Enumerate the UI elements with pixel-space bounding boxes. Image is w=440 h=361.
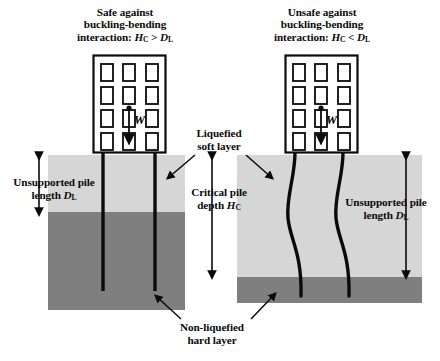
right-unsupported-line2: length DL — [334, 209, 438, 224]
left-title-line2: buckling-bending — [44, 18, 206, 30]
right-building — [286, 56, 358, 153]
nonliquefied-line2: hard layer — [146, 334, 278, 347]
nonliquefied-line1: Non-liquefied — [146, 321, 278, 334]
right-panel-title: Unsafe against buckling-bending interact… — [238, 6, 406, 47]
left-panel-title: Safe against buckling-bending interactio… — [44, 6, 206, 47]
left-unsupported-line2: length DL — [2, 189, 106, 204]
right-unsupported-pile-label: Unsupported pile length DL — [334, 196, 438, 224]
critical-pile-depth-label: Critical pile depth HC — [172, 186, 266, 214]
critical-line1: Critical pile — [172, 186, 266, 199]
right-unsupported-line1: Unsupported pile — [334, 196, 438, 209]
left-title-line3: interaction: HC > DL — [44, 31, 206, 47]
right-title-line1: Unsafe against — [238, 6, 406, 18]
right-ground — [237, 155, 422, 303]
left-load-label: W — [134, 113, 145, 128]
left-title-line1: Safe against — [44, 6, 206, 18]
left-unsupported-pile-label: Unsupported pile length DL — [2, 176, 106, 204]
left-hard-layer — [48, 212, 185, 310]
left-building — [94, 56, 166, 153]
nonliquefied-hard-layer-label: Non-liquefied hard layer — [146, 321, 278, 347]
right-hard-layer — [237, 277, 422, 303]
liquefied-soft-layer-label: Liquefied soft layer — [176, 127, 262, 153]
liquefied-line1: Liquefied — [176, 127, 262, 140]
right-load-label: W — [326, 113, 337, 128]
critical-line2: depth HC — [172, 199, 266, 214]
right-title-line2: buckling-bending — [238, 18, 406, 30]
left-unsupported-line1: Unsupported pile — [2, 176, 106, 189]
liquefied-line2: soft layer — [176, 140, 262, 153]
pile-buckling-diagram: Safe against buckling-bending interactio… — [0, 0, 440, 361]
right-title-line3: interaction: HC < DL — [238, 31, 406, 47]
